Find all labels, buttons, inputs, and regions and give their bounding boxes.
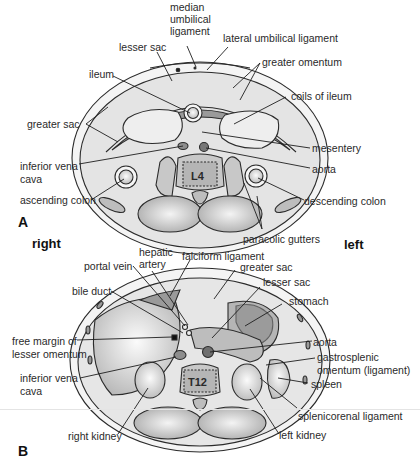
label-ivc-a-2: cava: [20, 173, 42, 185]
label-lesser-sac-b: lesser sac: [263, 276, 310, 288]
label-bile-duct: bile duct: [72, 285, 111, 297]
label-free-margin-1: free margin of: [12, 335, 77, 347]
label-ivc-b-2: cava: [20, 385, 42, 397]
panel-letter-b: B: [18, 443, 28, 459]
label-spleen: spleen: [311, 378, 342, 390]
label-vertebra-l4: L4: [191, 170, 204, 182]
label-mesentery: mesentery: [312, 142, 361, 154]
label-aorta-a: aorta: [312, 163, 336, 175]
label-median-umbilical-ligament-2: umbilical: [170, 13, 211, 25]
divider-line: [0, 409, 420, 410]
label-median-umbilical-ligament-3: ligament: [170, 25, 210, 37]
label-aorta-b: aorta: [313, 336, 337, 348]
label-descending-colon: descending colon: [304, 195, 386, 207]
label-paracolic-gutters: paracolic gutters: [243, 233, 320, 245]
label-vertebra-t12: T12: [188, 376, 207, 388]
label-coils-of-ileum: coils of ileum: [291, 90, 352, 102]
label-greater-omentum: greater omentum: [262, 56, 342, 68]
label-right-kidney: right kidney: [68, 430, 122, 442]
label-greater-sac-b: greater sac: [240, 261, 293, 273]
orientation-right: right: [32, 236, 61, 251]
label-lateral-umbilical-ligament: lateral umbilical ligament: [223, 32, 338, 44]
orientation-left: left: [344, 237, 364, 252]
label-ileum: ileum: [89, 68, 114, 80]
label-greater-sac-a: greater sac: [27, 118, 80, 130]
label-hepatic-artery-2: artery: [139, 258, 166, 270]
diagram-graphics: [0, 0, 420, 463]
label-hepatic-artery-1: hepatic: [139, 246, 173, 258]
label-gastrosplenic-2: omentum (ligament): [317, 364, 410, 376]
label-splenicorenal-ligament: splenicorenal ligament: [298, 410, 402, 422]
panel-letter-a: A: [18, 214, 28, 230]
label-ivc-a-1: inferior vena: [20, 160, 78, 172]
label-portal-vein: portal vein: [84, 260, 132, 272]
label-lesser-sac-a: lesser sac: [119, 41, 166, 53]
label-left-kidney: left kidney: [279, 429, 326, 441]
label-ivc-b-1: inferior vena: [20, 372, 78, 384]
label-median-umbilical-ligament-1: median: [170, 1, 204, 13]
label-ascending-colon: ascending colon: [20, 194, 96, 206]
section-a: [72, 62, 328, 254]
label-gastrosplenic-1: gastrosplenic: [317, 351, 379, 363]
label-stomach: stomach: [289, 295, 329, 307]
anatomy-figure: median umbilical ligament lateral umbili…: [0, 0, 420, 463]
label-free-margin-2: lesser omentum: [12, 348, 87, 360]
